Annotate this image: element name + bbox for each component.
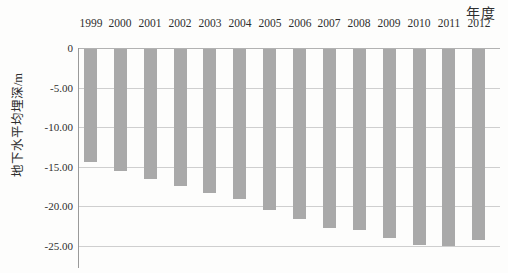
gridline xyxy=(78,206,500,207)
year-label-2010: 2010 xyxy=(402,17,436,29)
gridline xyxy=(78,88,500,89)
bar-1999 xyxy=(84,49,97,162)
bar-2010 xyxy=(413,49,426,245)
year-label-2004: 2004 xyxy=(223,17,257,29)
y-tick-label: -15.00 xyxy=(29,161,73,173)
y-axis-line xyxy=(78,48,79,268)
bar-2009 xyxy=(383,49,396,238)
year-label-2005: 2005 xyxy=(253,17,287,29)
year-label-2011: 2011 xyxy=(432,17,466,29)
gridline xyxy=(78,167,500,168)
bar-2007 xyxy=(323,49,336,228)
bar-2012 xyxy=(472,49,485,240)
y-tick-label: -20.00 xyxy=(29,200,73,212)
year-label-2003: 2003 xyxy=(193,17,227,29)
bar-2011 xyxy=(442,49,455,246)
groundwater-depth-bar-chart: 年度 地下水平均埋深/m 0-5.00-10.00-15.00-20.00-25… xyxy=(0,0,508,273)
y-tick-label: -5.00 xyxy=(29,82,73,94)
y-tick-label: 0 xyxy=(29,42,73,54)
bar-2002 xyxy=(174,49,187,186)
bar-2004 xyxy=(233,49,246,199)
year-label-2000: 2000 xyxy=(103,17,137,29)
zero-axis-line xyxy=(78,48,500,49)
y-axis-title: 地下水平均埋深/m xyxy=(7,55,23,195)
year-label-2007: 2007 xyxy=(312,17,346,29)
year-label-2008: 2008 xyxy=(342,17,376,29)
year-label-2012: 2012 xyxy=(462,17,496,29)
year-label-2001: 2001 xyxy=(133,17,167,29)
y-tick-label: -25.00 xyxy=(29,240,73,252)
bar-2000 xyxy=(114,49,127,171)
bar-2005 xyxy=(263,49,276,210)
bar-2008 xyxy=(353,49,366,230)
bar-2001 xyxy=(144,49,157,179)
bar-2006 xyxy=(293,49,306,219)
year-label-2009: 2009 xyxy=(372,17,406,29)
y-tick-label: -10.00 xyxy=(29,121,73,133)
year-label-2002: 2002 xyxy=(163,17,197,29)
bar-2003 xyxy=(203,49,216,193)
gridline xyxy=(78,127,500,128)
gridline xyxy=(78,246,500,247)
